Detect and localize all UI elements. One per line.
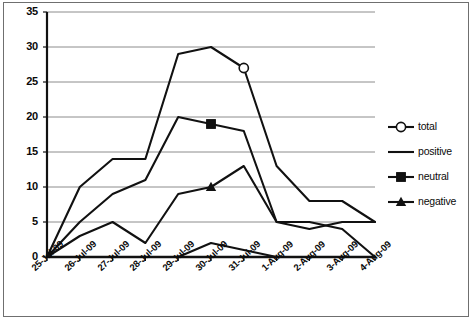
legend-item-neutral[interactable] <box>388 173 414 182</box>
y-axis-label: 10 <box>12 180 38 192</box>
circle-marker-icon <box>396 122 405 131</box>
y-axis-label: 30 <box>12 40 38 52</box>
square-marker-icon <box>207 120 216 129</box>
legend-label-positive: positive <box>418 145 452 157</box>
triangle-marker-icon <box>206 182 216 191</box>
y-axis-label: 35 <box>12 5 38 17</box>
y-axis-label: 20 <box>12 110 38 122</box>
circle-marker-icon <box>239 63 248 72</box>
legend-label-total: total <box>418 120 437 132</box>
legend-item-total[interactable] <box>388 122 414 131</box>
y-axis-label: 5 <box>12 215 38 227</box>
legend-item-negative[interactable] <box>388 197 414 206</box>
legend-label-neutral: neutral <box>418 170 449 182</box>
line-chart <box>0 0 474 322</box>
square-marker-icon <box>397 173 406 182</box>
y-axis-label: 15 <box>12 145 38 157</box>
legend-label-negative: negative <box>418 195 456 207</box>
y-axis-label: 25 <box>12 75 38 87</box>
